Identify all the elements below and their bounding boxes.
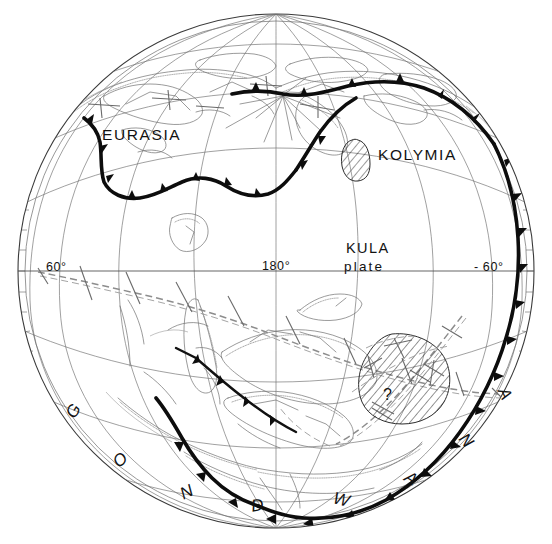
paleogeographic-map-figure: EURASIA KOLYMIA KULA plate 60° 180° - 60… bbox=[0, 0, 552, 544]
label-longitude-180: 180° bbox=[262, 259, 290, 273]
gondwana-letter-3: D bbox=[250, 495, 265, 516]
label-longitude-60: 60° bbox=[46, 260, 67, 274]
label-longitude-minus-60: - 60° bbox=[474, 260, 504, 274]
kolymia-block bbox=[341, 139, 370, 181]
label-question-mark: ? bbox=[383, 386, 392, 403]
label-eurasia: EURASIA bbox=[102, 126, 181, 143]
label-kula: KULA bbox=[346, 240, 389, 256]
map-canvas: EURASIA KOLYMIA KULA plate 60° 180° - 60… bbox=[0, 0, 552, 544]
label-kolymia: KOLYMIA bbox=[378, 146, 457, 163]
label-kula-plate: plate bbox=[344, 259, 384, 274]
